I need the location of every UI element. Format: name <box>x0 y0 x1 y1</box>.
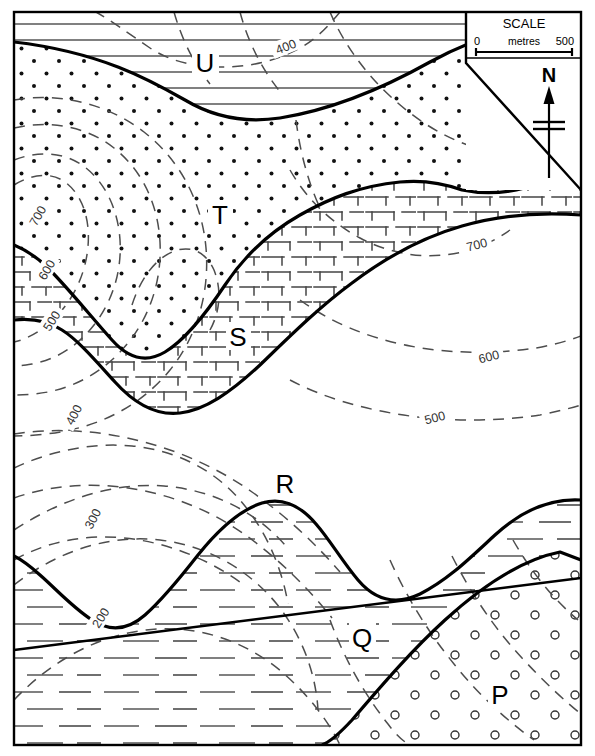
svg-text:P: P <box>491 680 508 710</box>
scale-units-label: metres <box>508 35 540 47</box>
svg-text:R: R <box>276 469 295 499</box>
unit-label-S: S <box>226 322 251 352</box>
unit-label-U: U <box>192 48 219 78</box>
scale-title: SCALE <box>503 16 546 31</box>
unit-label-T: T <box>208 200 233 230</box>
svg-text:S: S <box>229 322 246 352</box>
unit-label-R: R <box>272 469 298 499</box>
scale-north-inset: SCALE 0 metres 500 N <box>466 12 581 190</box>
north-arrow-label: N <box>542 64 556 86</box>
svg-text:Q: Q <box>352 623 372 653</box>
scale-min-label: 0 <box>474 35 480 47</box>
geological-map: SCALE 0 metres 500 N 400 700 <box>0 0 595 756</box>
svg-text:T: T <box>212 200 228 230</box>
scale-max-label: 500 <box>556 35 574 47</box>
svg-text:U: U <box>196 48 215 78</box>
unit-label-P: P <box>488 680 513 710</box>
unit-label-Q: Q <box>349 623 376 653</box>
